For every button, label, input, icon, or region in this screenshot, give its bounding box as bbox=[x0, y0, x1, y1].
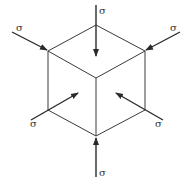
stress-arrow-lower-right bbox=[116, 93, 163, 120]
sigma-label-bottom: σ bbox=[99, 167, 106, 178]
stress-arrow-lower-left bbox=[31, 93, 78, 120]
stress-arrow-upper-right bbox=[146, 32, 180, 50]
stress-arrow-upper-left bbox=[12, 32, 47, 50]
cube-edge-bottom-right bbox=[96, 110, 145, 136]
sigma-label-upper-right: σ bbox=[170, 22, 177, 33]
cube-edge-bottom-left bbox=[48, 110, 96, 136]
hydrostatic-stress-cube-diagram: σσσσσσ bbox=[0, 0, 188, 187]
sigma-label-lower-left: σ bbox=[30, 118, 37, 129]
sigma-label-top: σ bbox=[99, 5, 106, 16]
sigma-label-upper-left: σ bbox=[16, 22, 23, 33]
sigma-label-lower-right: σ bbox=[155, 118, 162, 129]
